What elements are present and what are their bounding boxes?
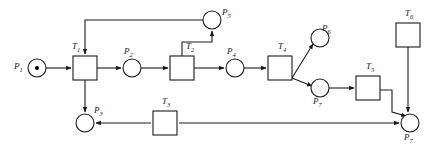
place-label-p3: P3 — [94, 106, 103, 117]
place-label-p4: P4 — [227, 47, 236, 58]
place-label-p2: P2 — [124, 47, 133, 58]
arc-t4-p6 — [292, 44, 313, 78]
token-p1 — [35, 66, 39, 70]
place-label-p7b: P7 — [404, 133, 413, 144]
place-label-p6: P6 — [322, 24, 331, 35]
petri-net-canvas — [0, 0, 435, 152]
node-layer — [28, 11, 420, 135]
place-p4[interactable] — [226, 59, 244, 77]
transition-t5[interactable] — [356, 76, 380, 100]
place-label-p7: P7 — [313, 97, 322, 108]
place-p7[interactable] — [311, 79, 329, 97]
place-p2[interactable] — [123, 59, 141, 77]
transition-t3[interactable] — [153, 111, 177, 135]
transition-label-t2: T2 — [186, 42, 194, 53]
transition-t1[interactable] — [73, 56, 97, 80]
transition-label-t5: T5 — [366, 62, 374, 73]
transition-label-t3: T3 — [162, 97, 170, 108]
place-label-p1: P1 — [14, 62, 23, 73]
place-p3[interactable] — [76, 114, 94, 132]
petri-net-diagram: T1T2T4T5T6T3P1P2P5P4P6P7P3P7 — [0, 0, 435, 152]
transition-label-t1: T1 — [72, 42, 80, 53]
transition-t6[interactable] — [396, 23, 420, 47]
transition-label-t6: T6 — [405, 9, 413, 20]
transition-label-t4: T4 — [278, 42, 286, 53]
place-p7b[interactable] — [401, 114, 419, 132]
place-p5[interactable] — [203, 11, 221, 29]
place-label-p5: P5 — [222, 8, 231, 19]
arc-t4-p7 — [292, 78, 312, 86]
transition-t4[interactable] — [268, 56, 292, 80]
arc-t5-p7b — [380, 90, 406, 116]
transition-t2[interactable] — [170, 56, 194, 80]
